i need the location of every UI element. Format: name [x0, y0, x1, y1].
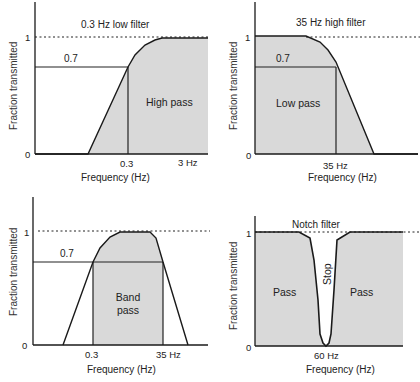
band-pass-region-label-line1: Band — [108, 291, 148, 303]
low-pass-title: 35 Hz high filter — [296, 17, 365, 28]
stop-label: Stop — [321, 263, 333, 285]
low-pass-fill — [255, 36, 374, 154]
y-tick-0: 0 — [246, 342, 251, 353]
pass-left-label: Pass — [273, 286, 296, 298]
y-tick-1: 1 — [24, 227, 29, 238]
x-axis-label: Frequency (Hz) — [308, 172, 377, 183]
y-tick-0: 0 — [25, 149, 30, 160]
filter-diagrams — [0, 0, 420, 382]
x-axis-label: Frequency (Hz) — [306, 364, 375, 375]
y-tick-0: 0 — [246, 150, 251, 161]
y-axis-label: Fraction transmitted — [8, 42, 19, 130]
x-tick-35hz: 35 Hz — [156, 349, 181, 360]
cutoff-level-label: 0.7 — [276, 53, 290, 64]
x-tick-0-3: 0.3 — [120, 158, 133, 169]
high-pass-region-label: High pass — [146, 96, 193, 108]
y-axis-label: Fraction transmitted — [228, 42, 239, 130]
pass-right-label: Pass — [350, 286, 373, 298]
y-axis-label: Fraction transmitted — [8, 228, 19, 316]
band-pass-panel — [33, 197, 210, 345]
x-axis-label: Frequency (Hz) — [87, 364, 156, 375]
cutoff-level-label: 0.7 — [60, 248, 74, 259]
x-tick-60hz: 60 Hz — [314, 350, 339, 361]
x-tick-3hz: 3 Hz — [178, 157, 198, 168]
low-pass-region-label: Low pass — [276, 97, 320, 109]
x-tick-35hz: 35 Hz — [323, 160, 348, 171]
band-pass-region-label-line2: pass — [108, 304, 148, 316]
band-pass-cap-fill — [93, 232, 163, 262]
high-pass-title: 0.3 Hz low filter — [81, 19, 149, 30]
y-tick-1: 1 — [25, 32, 30, 43]
y-tick-1: 1 — [245, 32, 250, 43]
notch-panel — [255, 216, 420, 346]
x-tick-0-3: 0.3 — [85, 349, 98, 360]
y-tick-1: 1 — [246, 228, 251, 239]
cutoff-level-label: 0.7 — [64, 53, 78, 64]
x-axis-label: Frequency (Hz) — [81, 172, 150, 183]
y-axis-label: Fraction transmitted — [228, 242, 239, 330]
notch-title: Notch filter — [292, 219, 340, 230]
y-tick-0: 0 — [22, 340, 27, 351]
